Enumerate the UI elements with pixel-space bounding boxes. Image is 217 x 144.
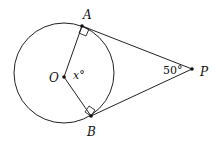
angle-50-label: 50° [163, 65, 183, 76]
radius-OB [64, 77, 91, 116]
label-O: O [49, 72, 59, 84]
angle-x-label: x° [73, 70, 85, 81]
point-O [62, 75, 66, 79]
point-B [89, 114, 93, 118]
tangent-PA [82, 26, 192, 69]
tangent-circle-diagram: A B O P x° 50° [0, 0, 217, 144]
point-P [190, 67, 194, 71]
label-P: P [200, 66, 208, 78]
circle [14, 23, 114, 123]
label-A: A [83, 9, 92, 21]
diagram-canvas [0, 0, 217, 144]
label-B: B [87, 126, 96, 138]
point-A [80, 24, 84, 28]
